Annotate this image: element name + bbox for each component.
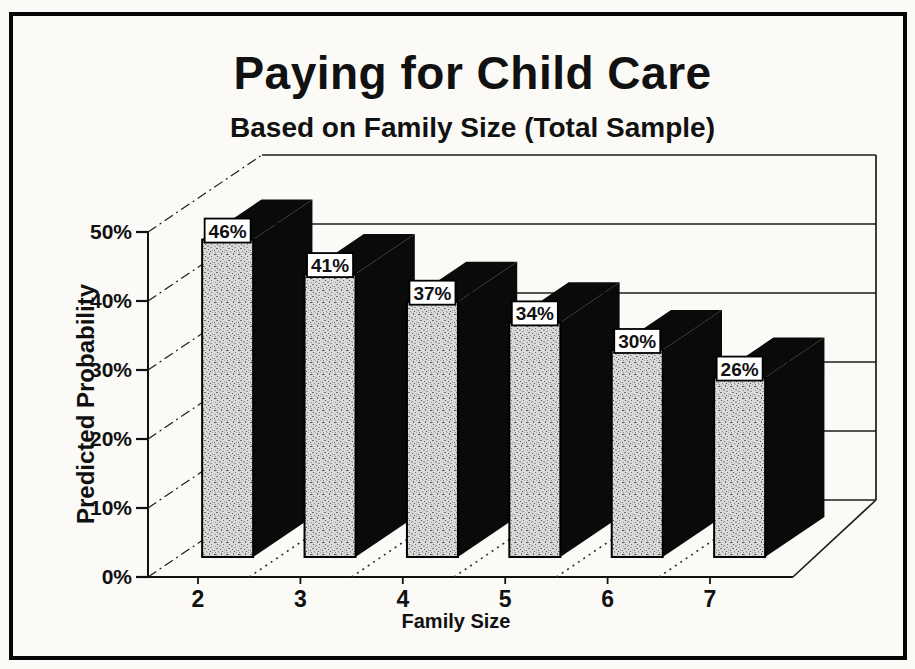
bar-side-face [253, 200, 312, 557]
bar-family-size-7: 26% [714, 338, 824, 557]
x-axis-title: Family Size [0, 610, 912, 633]
bar-value-label: 26% [721, 359, 759, 380]
bar-value-label: 30% [618, 331, 656, 352]
bar-side-face [356, 234, 415, 557]
bar-family-size-6: 30% [612, 310, 722, 557]
bar-front-face [202, 240, 253, 557]
bar-family-size-4: 37% [407, 262, 517, 557]
chart-title: Paying for Child Care [40, 50, 905, 96]
y-tick-label: 0% [102, 565, 133, 588]
y-tick-label: 50% [90, 220, 132, 243]
bar-value-label: 41% [311, 255, 349, 276]
bar-side-face [560, 282, 619, 557]
y-axis-title: Predicted Probability [72, 284, 100, 524]
bar-front-face [407, 302, 458, 557]
scanned-chart-page: 0%10%20%30%40%50%23456746%41%37%34%30%26… [0, 0, 915, 669]
bar-family-size-3: 41% [305, 234, 415, 557]
bar-value-label: 34% [516, 303, 554, 324]
bar-family-size-5: 34% [509, 282, 619, 557]
bar-family-size-2: 46% [202, 200, 312, 557]
x-tick-label: 3 [294, 586, 307, 612]
chart-subtitle: Based on Family Size (Total Sample) [40, 114, 905, 142]
x-tick-label: 6 [601, 586, 614, 612]
x-tick-label: 2 [192, 586, 205, 612]
x-tick-label: 4 [396, 586, 409, 612]
bar-front-face [509, 322, 560, 557]
bar-value-label: 46% [209, 221, 247, 242]
x-tick-label: 5 [499, 586, 512, 612]
bar-side-face [663, 310, 722, 557]
bar-front-face [714, 378, 765, 557]
bar-front-face [305, 274, 356, 557]
bar-side-face [458, 262, 517, 557]
bar-value-label: 37% [413, 283, 451, 304]
bar-front-face [612, 350, 663, 557]
x-tick-label: 7 [704, 586, 717, 612]
bar-chart-3d-canvas: 0%10%20%30%40%50%23456746%41%37%34%30%26… [0, 0, 915, 669]
